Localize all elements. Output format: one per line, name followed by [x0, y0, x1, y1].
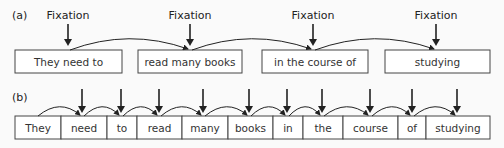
saccade-arc	[192, 39, 311, 50]
saccade-arc	[38, 107, 80, 116]
fixation-arrow-icon	[453, 89, 461, 113]
word-cell: books	[228, 116, 273, 139]
saccade-arc	[84, 107, 119, 116]
chunk-text: in the course of	[274, 56, 356, 68]
chunk-text: They need to	[33, 56, 103, 68]
fixation-arrow-icon	[309, 24, 317, 46]
fixation-arrow-icon	[78, 89, 86, 113]
chunk-box: read many books	[138, 50, 242, 73]
word-text: books	[235, 122, 266, 134]
saccade-arc	[315, 39, 434, 50]
chunk-text: studying	[415, 56, 460, 68]
saccade-arc	[251, 107, 285, 116]
saccade-arc	[372, 107, 410, 116]
panel-b-label: (b)	[12, 91, 28, 104]
saccade-arc	[289, 107, 320, 116]
fixation-label: Fixation	[169, 9, 212, 22]
word-text: read	[148, 122, 172, 134]
fixation-label: Fixation	[415, 9, 458, 22]
word-text: the	[314, 122, 331, 134]
fixation-arrow-icon	[186, 24, 194, 46]
word-text: many	[190, 122, 220, 134]
panel-a-chunked-reading: They need toread many booksin the course…	[15, 9, 490, 73]
fixation-arrow-icon	[245, 89, 253, 113]
panel-a-label: (a)	[12, 9, 27, 22]
fixation-arrow-icon	[318, 89, 326, 113]
saccade-arc	[414, 107, 455, 116]
word-cell: the	[303, 116, 343, 139]
word-cell: in	[273, 116, 303, 139]
word-text: studying	[435, 122, 480, 134]
word-text: in	[283, 122, 293, 134]
reading-fixation-diagram: (a) They need toread many booksin the co…	[0, 0, 504, 148]
fixation-arrow-icon	[117, 89, 125, 113]
saccade-arc	[324, 107, 368, 116]
word-cell: course	[343, 116, 398, 139]
word-cell: of	[398, 116, 426, 139]
chunk-box: They need to	[15, 50, 122, 73]
word-text: course	[353, 122, 388, 134]
word-text: to	[117, 122, 128, 134]
saccade-arc	[205, 107, 247, 116]
fixation-arrow-icon	[199, 89, 207, 113]
saccade-arc	[70, 39, 188, 50]
fixation-arrow-icon	[408, 89, 416, 113]
word-text: need	[71, 122, 97, 134]
fixation-arrow-icon	[432, 24, 440, 46]
saccade-arc	[123, 107, 157, 116]
word-cell: They	[15, 116, 61, 139]
chunk-text: read many books	[145, 56, 236, 68]
word-cell: many	[182, 116, 228, 139]
fixation-label: Fixation	[47, 9, 90, 22]
fixation-arrow-icon	[283, 89, 291, 113]
word-cell: read	[137, 116, 182, 139]
word-text: of	[407, 122, 417, 134]
fixation-arrow-icon	[64, 24, 72, 46]
fixation-arrow-icon	[366, 89, 374, 113]
word-text: They	[24, 122, 51, 134]
chunk-box: in the course of	[262, 50, 368, 73]
panel-b-word-by-word-reading: Theyneedtoreadmanybooksinthecourseofstud…	[15, 89, 490, 139]
chunk-box: studying	[385, 50, 490, 73]
word-cell: studying	[426, 116, 490, 139]
saccade-arc	[161, 107, 201, 116]
fixation-label: Fixation	[292, 9, 335, 22]
word-cell: need	[61, 116, 107, 139]
fixation-arrow-icon	[155, 89, 163, 113]
word-cell: to	[107, 116, 137, 139]
